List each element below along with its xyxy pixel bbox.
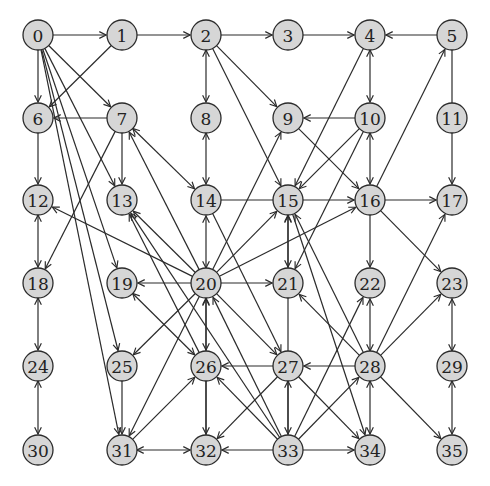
node-label: 15 bbox=[277, 191, 299, 211]
edge-0-13 bbox=[45, 48, 115, 185]
node-24: 24 bbox=[23, 351, 53, 381]
node-7: 7 bbox=[107, 103, 137, 133]
node-label: 5 bbox=[447, 26, 458, 46]
node-label: 32 bbox=[195, 441, 217, 461]
node-label: 28 bbox=[359, 357, 381, 377]
node-label: 3 bbox=[283, 26, 294, 46]
edge-16-5 bbox=[377, 49, 445, 186]
edge-0-31 bbox=[41, 50, 119, 435]
node-15: 15 bbox=[273, 185, 303, 215]
edge-20-7 bbox=[129, 132, 199, 269]
node-18: 18 bbox=[23, 268, 53, 298]
node-label: 27 bbox=[277, 357, 299, 377]
node-32: 32 bbox=[191, 435, 221, 465]
node-13: 13 bbox=[107, 185, 137, 215]
edge-28-21 bbox=[299, 294, 359, 355]
node-label: 14 bbox=[195, 191, 217, 211]
node-label: 9 bbox=[283, 109, 294, 129]
edge-0-19 bbox=[43, 49, 117, 268]
node-25: 25 bbox=[107, 351, 137, 381]
node-5: 5 bbox=[437, 20, 467, 50]
node-label: 21 bbox=[277, 274, 299, 294]
node-31: 31 bbox=[107, 435, 137, 465]
node-label: 1 bbox=[117, 26, 128, 46]
node-30: 30 bbox=[23, 435, 53, 465]
edge-20-31 bbox=[129, 296, 199, 435]
node-label: 34 bbox=[359, 441, 381, 461]
node-label: 30 bbox=[27, 441, 49, 461]
node-19: 19 bbox=[107, 268, 137, 298]
edge-33-13 bbox=[131, 213, 280, 437]
node-label: 24 bbox=[27, 357, 49, 377]
node-26: 26 bbox=[191, 351, 221, 381]
edges-layer bbox=[38, 35, 452, 450]
node-label: 7 bbox=[117, 109, 128, 129]
node-0: 0 bbox=[23, 20, 53, 50]
node-label: 8 bbox=[201, 109, 212, 129]
node-14: 14 bbox=[191, 185, 221, 215]
edge-20-9 bbox=[213, 132, 281, 269]
node-29: 29 bbox=[437, 351, 467, 381]
edge-4-15 bbox=[295, 48, 363, 185]
node-9: 9 bbox=[273, 103, 303, 133]
node-12: 12 bbox=[23, 185, 53, 215]
node-label: 11 bbox=[441, 109, 463, 129]
node-8: 8 bbox=[191, 103, 221, 133]
node-1: 1 bbox=[107, 20, 137, 50]
edge-28-35 bbox=[380, 377, 440, 439]
node-16: 16 bbox=[355, 185, 385, 215]
edge-20-12 bbox=[52, 207, 192, 276]
node-2: 2 bbox=[191, 20, 221, 50]
node-label: 4 bbox=[365, 26, 376, 46]
node-34: 34 bbox=[355, 435, 385, 465]
node-label: 25 bbox=[111, 357, 133, 377]
node-27: 27 bbox=[273, 351, 303, 381]
node-28: 28 bbox=[355, 351, 385, 381]
node-33: 33 bbox=[273, 435, 303, 465]
node-22: 22 bbox=[355, 268, 385, 298]
node-17: 17 bbox=[437, 185, 467, 215]
edge-20-15 bbox=[217, 211, 277, 272]
node-label: 31 bbox=[111, 441, 133, 461]
edge-2-15 bbox=[213, 48, 281, 185]
node-label: 0 bbox=[33, 26, 44, 46]
edge-31-26 bbox=[133, 377, 195, 439]
node-3: 3 bbox=[273, 20, 303, 50]
edge-2-9 bbox=[217, 46, 277, 107]
edge-7-14 bbox=[133, 128, 195, 188]
node-10: 10 bbox=[355, 103, 385, 133]
node-label: 16 bbox=[359, 191, 381, 211]
node-20: 20 bbox=[191, 268, 221, 298]
node-label: 26 bbox=[195, 357, 217, 377]
node-label: 22 bbox=[359, 274, 381, 294]
node-label: 12 bbox=[27, 191, 49, 211]
node-35: 35 bbox=[437, 435, 467, 465]
node-label: 18 bbox=[27, 274, 49, 294]
node-label: 33 bbox=[277, 441, 299, 461]
node-4: 4 bbox=[355, 20, 385, 50]
node-6: 6 bbox=[23, 103, 53, 133]
node-label: 29 bbox=[441, 357, 463, 377]
edge-28-15 bbox=[295, 214, 363, 352]
node-label: 6 bbox=[33, 109, 44, 129]
edge-28-17 bbox=[377, 214, 445, 352]
node-label: 19 bbox=[111, 274, 133, 294]
edge-33-22 bbox=[295, 297, 363, 436]
node-label: 20 bbox=[195, 274, 217, 294]
node-21: 21 bbox=[273, 268, 303, 298]
node-label: 17 bbox=[441, 191, 463, 211]
node-label: 10 bbox=[359, 109, 381, 129]
edge-33-20 bbox=[213, 297, 281, 436]
graph-canvas: 0123456789101112131415161718192021222324… bbox=[0, 0, 490, 486]
node-label: 23 bbox=[441, 274, 463, 294]
edge-28-23 bbox=[381, 294, 441, 355]
node-label: 2 bbox=[201, 26, 212, 46]
node-label: 13 bbox=[111, 191, 133, 211]
node-label: 35 bbox=[441, 441, 463, 461]
node-11: 11 bbox=[437, 103, 467, 133]
node-23: 23 bbox=[437, 268, 467, 298]
